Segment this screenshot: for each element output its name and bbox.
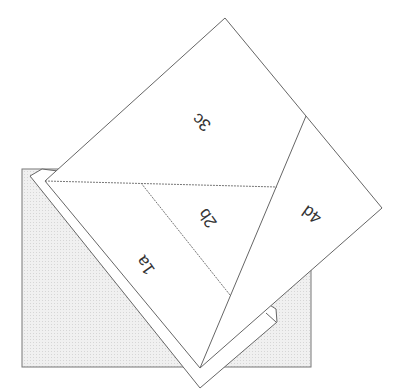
diagram-canvas: 3c 2b 1a 4d (0, 0, 395, 392)
